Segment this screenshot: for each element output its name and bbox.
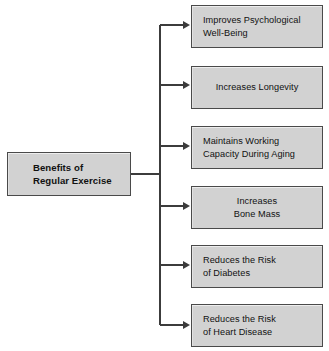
root-node-benefits-of-regular-exercise[interactable]: Benefits of Regular Exercise xyxy=(7,152,131,196)
branch-node-label: Reduces the Risk of Diabetes xyxy=(192,254,322,279)
branch-node-reduces-the-risk-of-diabetes[interactable]: Reduces the Risk of Diabetes xyxy=(191,245,323,288)
branch-node-reduces-the-risk-of-heart-disease[interactable]: Reduces the Risk of Heart Disease xyxy=(191,304,323,347)
diagram-canvas: Benefits of Regular Exercise Improves Ps… xyxy=(0,0,329,351)
branch-node-label: Reduces the Risk of Heart Disease xyxy=(192,313,322,338)
arrowhead-3 xyxy=(183,202,190,210)
branch-node-label: Improves Psychological Well-Being xyxy=(192,14,322,39)
arrowhead-4 xyxy=(183,261,190,269)
branch-node-label: Increases Bone Mass xyxy=(192,195,322,220)
branch-node-maintains-working-capacity-during-aging[interactable]: Maintains Working Capacity During Aging xyxy=(191,126,323,169)
root-node-label: Benefits of Regular Exercise xyxy=(8,161,130,187)
branch-node-label: Maintains Working Capacity During Aging xyxy=(192,135,322,160)
branch-node-increases-longevity[interactable]: Increases Longevity xyxy=(191,66,323,109)
arrowhead-0 xyxy=(183,21,190,29)
arrowhead-1 xyxy=(183,81,190,89)
branch-node-label: Increases Longevity xyxy=(192,81,322,93)
branch-node-improves-psychological-well-being[interactable]: Improves Psychological Well-Being xyxy=(191,5,323,48)
arrowhead-2 xyxy=(183,142,190,150)
branch-node-increases-bone-mass[interactable]: Increases Bone Mass xyxy=(191,186,323,229)
arrowhead-5 xyxy=(183,321,190,329)
